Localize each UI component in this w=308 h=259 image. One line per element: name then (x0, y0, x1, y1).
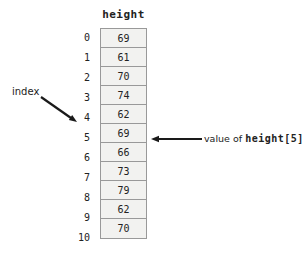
index-label: index (12, 86, 39, 97)
array-cell: 61 (101, 48, 146, 67)
array-cell: 73 (101, 162, 146, 181)
value-label-code: height[5] (245, 133, 304, 144)
array-cell: 66 (101, 143, 146, 162)
index-cell: 9 (55, 208, 90, 228)
index-column: 012345678910 (55, 28, 90, 248)
index-cell: 2 (55, 68, 90, 88)
value-label: value of height[5] (204, 133, 304, 144)
index-cell: 1 (55, 48, 90, 68)
index-cell: 5 (55, 128, 90, 148)
index-cell: 7 (55, 168, 90, 188)
array-name-label: height (100, 8, 147, 21)
array-cell: 79 (101, 181, 146, 200)
array-cell: 69 (101, 29, 146, 48)
index-cell: 0 (55, 28, 90, 48)
array-cell: 62 (101, 105, 146, 124)
array-cell: 74 (101, 86, 146, 105)
index-cell: 6 (55, 148, 90, 168)
index-cell: 3 (55, 88, 90, 108)
value-arrow (151, 136, 202, 142)
arrow-layer (0, 0, 308, 259)
array-cell: 69 (101, 124, 146, 143)
array-diagram: height 012345678910 69617074626966737962… (0, 0, 308, 259)
index-cell: 8 (55, 188, 90, 208)
array-cell: 70 (101, 219, 146, 238)
array-table: 6961707462696673796270 (100, 28, 147, 239)
array-cell: 70 (101, 67, 146, 86)
array-cell: 62 (101, 200, 146, 219)
index-cell: 4 (55, 108, 90, 128)
index-cell: 10 (55, 228, 90, 248)
value-label-plain: value of (204, 133, 245, 144)
